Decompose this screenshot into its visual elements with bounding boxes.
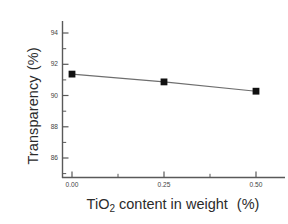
chart-screenshot: Transparency(%) TiO2 content in weight(%… xyxy=(0,0,288,224)
figure-canvas: Transparency(%) TiO2 content in weight(%… xyxy=(0,0,288,224)
y-major-ticks xyxy=(63,33,69,158)
data-point-marker xyxy=(161,79,168,86)
data-point-marker xyxy=(69,71,76,78)
x-major-ticks xyxy=(72,172,256,178)
data-point-marker xyxy=(253,88,260,95)
plot-area xyxy=(0,0,288,224)
data-markers xyxy=(69,71,260,95)
